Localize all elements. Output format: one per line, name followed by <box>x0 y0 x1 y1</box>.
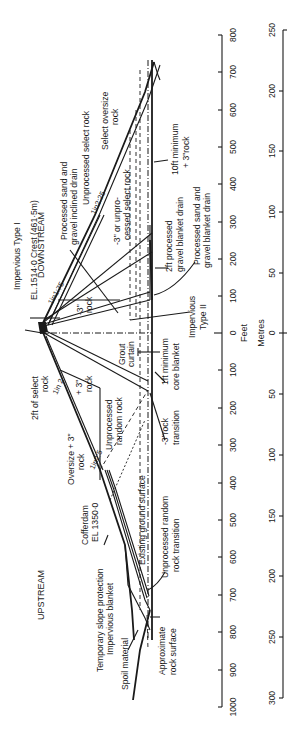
label-slope-us-upper: 1in 2 <box>51 377 66 396</box>
label-unprocessed-random: Unprocessed <box>104 399 114 450</box>
feet-tick: 500 <box>228 513 238 527</box>
metres-tick: 300 <box>267 691 277 705</box>
feet-tick: 300 <box>228 438 238 452</box>
label-plus3-rock-2: rock <box>84 375 94 392</box>
feet-tick: 100 <box>228 289 238 303</box>
feet-scale: 800 700 600 500 400 300 200 100 0 100 20… <box>214 28 249 717</box>
leader-minus3-rock <box>70 250 118 313</box>
label-approx-rock-2: rock surface <box>168 628 178 675</box>
feet-tick: 1000 <box>228 697 238 716</box>
label-existing-ground: Existing ground surface <box>137 475 147 565</box>
label-minus3-transition-2: transition <box>171 410 181 445</box>
feet-tick: 700 <box>228 588 238 602</box>
downstream-toe <box>154 62 160 80</box>
label-two-ft-select: 2ft of select <box>30 375 40 420</box>
feet-tick: 400 <box>228 476 238 490</box>
feet-tick: 300 <box>228 215 238 229</box>
metres-tick: 250 <box>267 23 277 37</box>
label-approx-rock: Approximate <box>157 627 167 675</box>
feet-tick: 100 <box>228 363 238 377</box>
dam-cross-section-figure: DOWNSTREAM UPSTREAM Impervious Type I EL… <box>0 0 302 730</box>
label-ten-ft-min: 10ft minimum <box>170 123 180 175</box>
feet-tick: 400 <box>228 177 238 191</box>
label-processed-blanket-2: gravel blanket drain <box>202 193 212 268</box>
label-impervious-blanket: Impervious blanket <box>105 582 115 655</box>
feet-tick: 200 <box>228 252 238 266</box>
label-oversize-2: rock <box>76 453 86 470</box>
impervious-core-ds-2 <box>44 300 150 326</box>
label-select-oversize-2: rock <box>110 108 120 125</box>
metres-tick: 50 <box>267 268 277 278</box>
label-minus3-unprocessed: -3" or unpro- <box>112 197 122 245</box>
label-upstream: UPSTREAM <box>36 570 46 620</box>
label-minus3-unprocessed-2: cessed select rock <box>122 169 132 240</box>
metres-tick: 100 <box>267 448 277 462</box>
label-cofferdam-el: EL 1350·0 <box>90 502 100 542</box>
label-temp-slope: Temporary slope protection <box>95 568 105 672</box>
feet-tick: 800 <box>228 625 238 639</box>
metres-tick: 50 <box>267 389 277 399</box>
metres-tick: 150 <box>267 509 277 523</box>
label-minus3-transition: -3"rock <box>160 417 170 445</box>
metres-tick: 250 <box>267 630 277 644</box>
label-impervious-type-2: Impervious <box>187 296 197 338</box>
metres-scale: 250 200 150 100 50 0 50 100 150 200 250 … <box>256 23 287 705</box>
label-minus3-rock-2: rock <box>84 296 94 313</box>
labels: DOWNSTREAM UPSTREAM Impervious Type I EL… <box>12 92 212 690</box>
label-plus3-rock: + 3" <box>74 380 84 395</box>
label-spoil: Spoil material <box>120 638 130 690</box>
feet-tick: 800 <box>228 28 238 42</box>
metres-tick: 150 <box>267 144 277 158</box>
label-two-ft-processed-2: gravel blanket drain <box>175 197 185 272</box>
feet-tick: 0 <box>228 330 238 335</box>
feet-tick: 600 <box>228 550 238 564</box>
label-two-ft-select-2: rock <box>40 375 50 392</box>
label-unprocessed-random-2: random rock <box>114 397 124 445</box>
feet-tick: 200 <box>228 401 238 415</box>
label-processed-inclined: Processed sand and <box>59 161 69 240</box>
dam-section-svg: DOWNSTREAM UPSTREAM Impervious Type I EL… <box>0 0 302 730</box>
label-two-ft-processed: 2ft processed <box>164 220 174 272</box>
label-processed-inclined-2: gravel inclined drain <box>69 168 79 245</box>
label-oversize: Oversize + 3" <box>66 433 76 485</box>
label-unprocessed-transition-2: rock transition <box>171 518 181 572</box>
metres-axis-label: Metres <box>256 319 266 347</box>
feet-tick: 500 <box>228 140 238 154</box>
feet-tick: 600 <box>228 103 238 117</box>
metres-tick: 100 <box>267 205 277 219</box>
label-grout-curtain-2: curtain <box>126 341 136 367</box>
metres-tick: 200 <box>267 84 277 98</box>
label-crest: EL.1514·0 Crest (461·5m) <box>29 200 39 300</box>
label-one-ft-min-2: core blanket <box>171 343 181 390</box>
metres-tick: 200 <box>267 569 277 583</box>
label-impervious-type-2b: Type II <box>198 304 208 330</box>
label-processed-blanket: Processed sand and <box>192 186 202 265</box>
metres-tick: 0 <box>267 330 277 335</box>
label-unprocessed-select: Unprocessed select rock <box>81 110 91 205</box>
feet-axis-label: Feet <box>239 323 249 342</box>
feet-tick: 700 <box>228 65 238 79</box>
label-ten-ft-min-2: + 3"rock <box>181 136 191 168</box>
label-impervious-type-1: Impervious Type I <box>12 222 22 290</box>
label-unprocessed-transition: Unprocessed random <box>160 496 170 578</box>
feet-tick: 900 <box>228 663 238 677</box>
label-cofferdam: Cofferdam <box>80 505 90 545</box>
label-select-oversize: Select oversize <box>100 92 110 150</box>
grout-curtain <box>138 348 160 356</box>
